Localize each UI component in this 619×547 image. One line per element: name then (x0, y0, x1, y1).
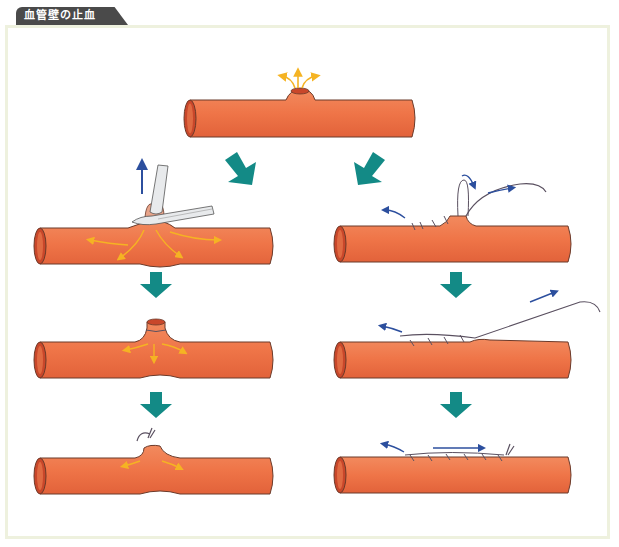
step-arrow-down-right-2 (440, 392, 472, 418)
right-step1-start-suture (334, 175, 571, 262)
step-arrow-diag-left (225, 152, 256, 185)
hemostasis-diagram (0, 0, 619, 547)
step-arrow-diag-right (354, 152, 385, 185)
knot-icon (137, 428, 155, 441)
thread-arrow-left (385, 210, 405, 218)
blood-spurt-arrows (282, 72, 316, 88)
right-step3-suture-complete (334, 444, 571, 493)
step-arrow-down-right-1 (440, 272, 472, 298)
step-arrow-down-left-1 (140, 272, 172, 298)
right-step2-running-suture (334, 292, 600, 378)
step-arrow-down-left-2 (140, 392, 172, 418)
left-step3-tied-stump (34, 428, 273, 494)
left-step2-ligated-bulge (34, 319, 273, 378)
top-damaged-vessel (184, 72, 415, 137)
